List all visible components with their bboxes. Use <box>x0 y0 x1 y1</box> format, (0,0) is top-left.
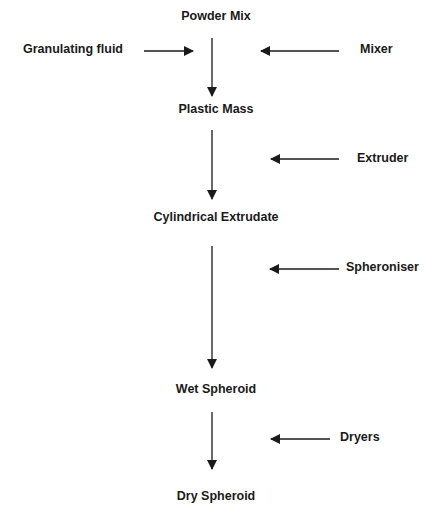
stage-dry-spheroid: Dry Spheroid <box>177 489 256 503</box>
stage-cylindrical-extrudate: Cylindrical Extrudate <box>153 210 278 224</box>
input-spheroniser: Spheroniser <box>346 260 419 274</box>
stage-wet-spheroid: Wet Spheroid <box>176 382 256 396</box>
input-dryers: Dryers <box>340 430 380 444</box>
input-extruder: Extruder <box>357 151 408 165</box>
input-granulating-fluid: Granulating fluid <box>23 42 123 56</box>
stage-plastic-mass: Plastic Mass <box>178 102 253 116</box>
input-mixer: Mixer <box>360 42 393 56</box>
stage-powder-mix: Powder Mix <box>181 9 250 23</box>
